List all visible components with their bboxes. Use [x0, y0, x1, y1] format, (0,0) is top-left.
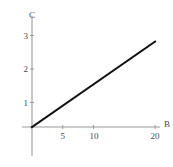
y-axis-title: C: [29, 11, 35, 20]
x-axis-title: B: [164, 120, 170, 129]
x-tick-label-10: 10: [90, 132, 99, 141]
y-tick-label-3: 3: [18, 31, 28, 40]
chart-container: 3 2 1 5 10 20 C B: [0, 0, 173, 167]
chart-plot-area: [0, 0, 173, 167]
y-tick-label-1: 1: [18, 98, 28, 107]
x-tick-label-5: 5: [61, 132, 66, 141]
y-tick-label-2: 2: [18, 65, 28, 74]
x-tick-label-20: 20: [151, 132, 160, 141]
data-line-series-0: [32, 42, 155, 127]
